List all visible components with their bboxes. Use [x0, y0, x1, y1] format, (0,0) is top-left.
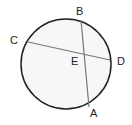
label-a: A: [90, 107, 98, 119]
label-d: D: [117, 55, 125, 67]
label-b: B: [76, 5, 83, 17]
label-c: C: [10, 34, 18, 46]
circle-diagram: B C E D A: [0, 0, 132, 125]
label-e: E: [71, 55, 78, 67]
circle: [21, 19, 111, 109]
